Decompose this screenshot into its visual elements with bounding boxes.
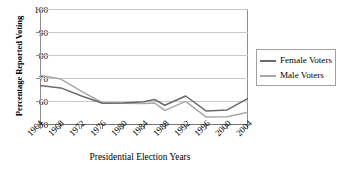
legend-swatch-icon-male [260, 75, 276, 77]
line-chart: Percentage Reported Voting 100 90 80 70 … [0, 0, 337, 169]
legend: Female Voters Male Voters [256, 49, 336, 86]
legend-label-male-voters: Male Voters [280, 71, 324, 80]
legend-swatch-icon-female [260, 60, 276, 62]
legend-item-female-voters: Female Voters [260, 53, 335, 68]
series-layer [40, 9, 248, 125]
legend-label-female-voters: Female Voters [280, 56, 332, 65]
series-line-female-voters [40, 86, 248, 112]
x-axis-title: Presidential Election Years [30, 152, 250, 162]
y-axis-title: Percentage Reported Voting [14, 0, 24, 132]
legend-item-male-voters: Male Voters [260, 68, 335, 83]
